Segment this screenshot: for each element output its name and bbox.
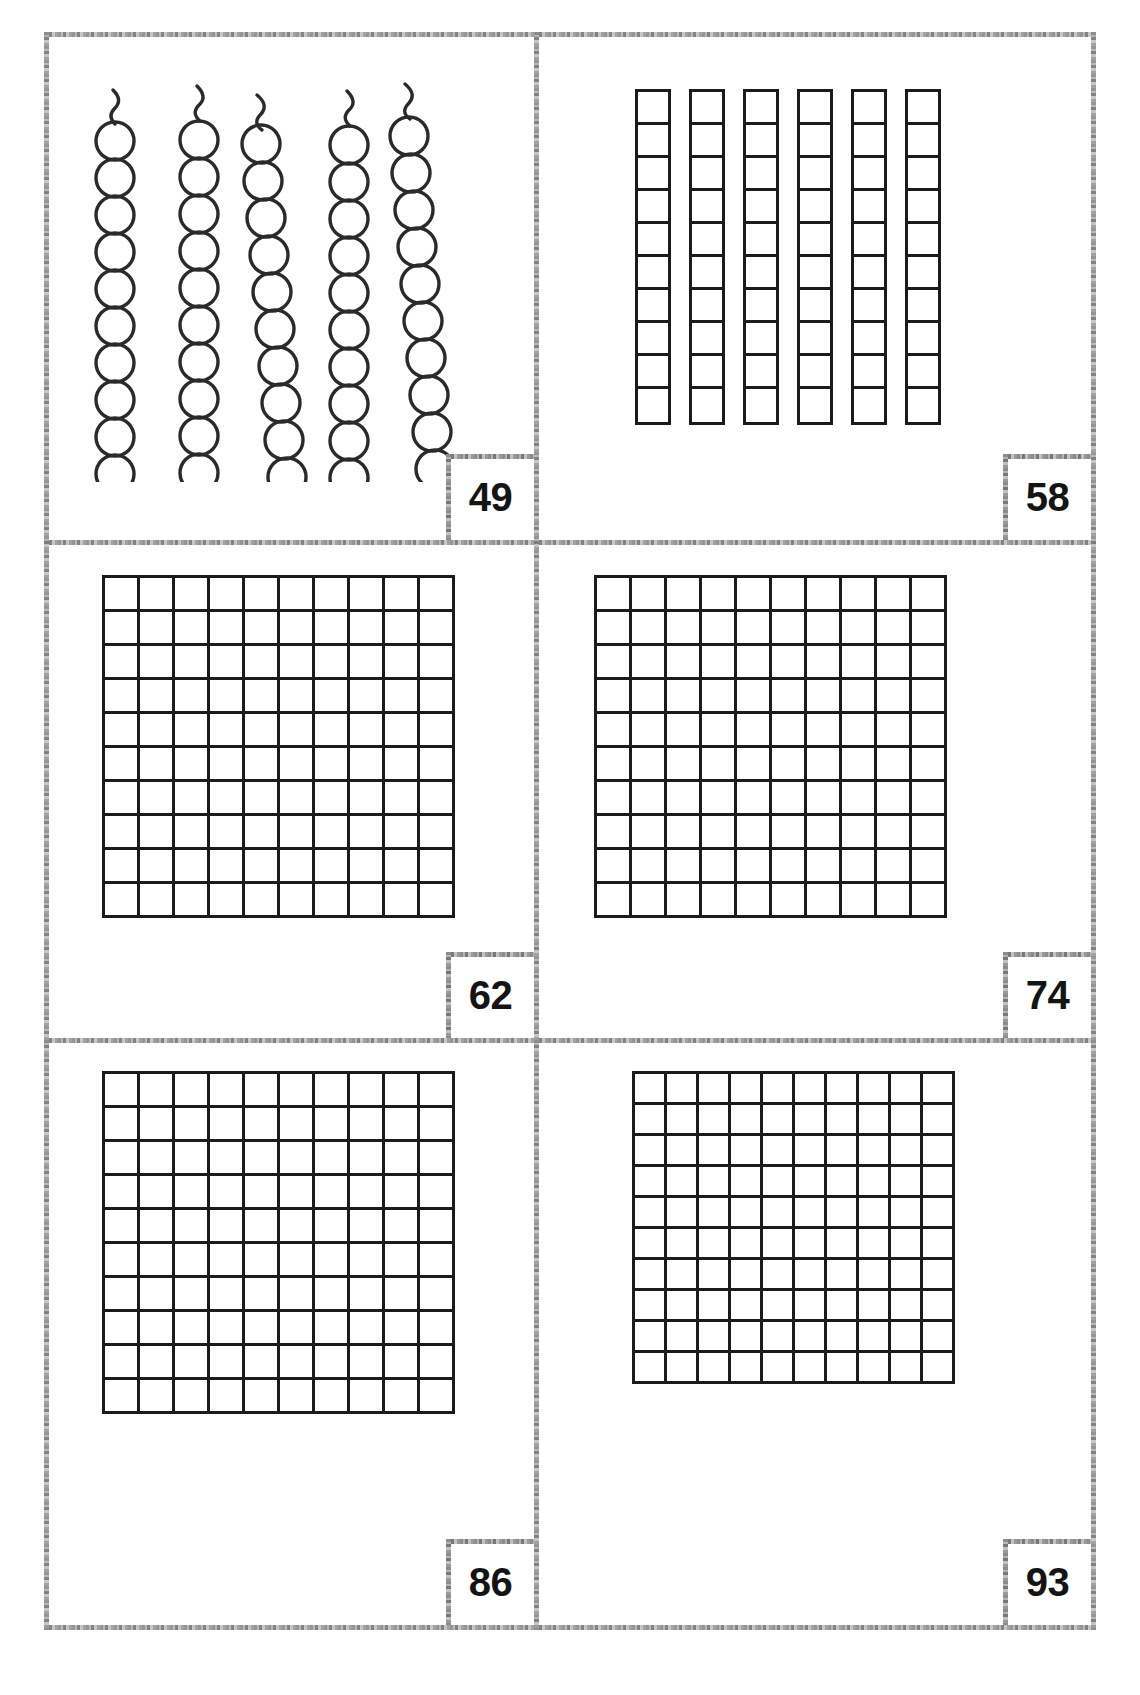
grid-unit	[737, 850, 772, 884]
answer-value-4: 74	[1008, 957, 1087, 1038]
grid-unit	[175, 884, 210, 918]
grid-unit	[280, 1142, 315, 1176]
hundred-square-grid-93	[632, 1071, 955, 1384]
grid-unit	[667, 1074, 699, 1105]
grid-unit	[105, 816, 140, 850]
grid-unit	[632, 680, 667, 714]
grid-unit	[912, 714, 947, 748]
grid-unit	[923, 1136, 955, 1167]
grid-unit	[105, 680, 140, 714]
grid-unit	[667, 1353, 699, 1384]
grid-unit	[210, 714, 245, 748]
hundred-square-grid-62	[102, 575, 455, 918]
grid-unit	[105, 1142, 140, 1176]
grid-unit	[842, 680, 877, 714]
answer-badge-2[interactable]: 58	[1003, 454, 1091, 540]
grid-unit	[385, 1380, 420, 1414]
grid-unit	[280, 816, 315, 850]
grid-unit	[667, 748, 702, 782]
answer-badge-1[interactable]: 49	[446, 454, 534, 540]
grid-unit	[923, 1291, 955, 1322]
grid-unit	[350, 1312, 385, 1346]
grid-unit	[842, 850, 877, 884]
grid-unit	[795, 1291, 827, 1322]
grid-unit	[702, 612, 737, 646]
rod-unit	[746, 125, 776, 158]
rod-unit	[908, 290, 938, 323]
bead-strings-svg	[79, 82, 499, 482]
grid-unit	[859, 1322, 891, 1353]
grid-unit	[635, 1260, 667, 1291]
grid-unit	[877, 714, 912, 748]
grid-unit	[842, 612, 877, 646]
rod-unit	[800, 92, 830, 125]
grid-unit	[280, 1346, 315, 1380]
grid-unit	[912, 680, 947, 714]
grid-unit	[667, 1322, 699, 1353]
grid-unit	[140, 816, 175, 850]
grid-unit	[140, 1380, 175, 1414]
grid-unit	[280, 1210, 315, 1244]
rod-unit	[692, 191, 722, 224]
rod-unit	[746, 92, 776, 125]
grid-unit	[632, 748, 667, 782]
grid-unit	[667, 1291, 699, 1322]
grid-unit	[877, 782, 912, 816]
rod-unit	[638, 290, 668, 323]
grid-unit	[772, 714, 807, 748]
grid-unit	[245, 714, 280, 748]
grid-unit	[210, 748, 245, 782]
grid-unit	[420, 748, 455, 782]
grid-unit	[210, 646, 245, 680]
grid-unit	[597, 646, 632, 680]
grid-unit	[350, 1176, 385, 1210]
grid-unit	[667, 1229, 699, 1260]
grid-unit	[105, 1312, 140, 1346]
problem-cell-3: 62	[49, 545, 534, 1038]
grid-unit	[667, 850, 702, 884]
grid-unit	[772, 782, 807, 816]
grid-unit	[827, 1105, 859, 1136]
rod-unit	[854, 290, 884, 323]
grid-unit	[731, 1229, 763, 1260]
rod-unit	[908, 191, 938, 224]
hundred-square-grid-86	[102, 1071, 455, 1414]
grid-unit	[175, 714, 210, 748]
grid-unit	[737, 816, 772, 850]
grid-unit	[420, 1210, 455, 1244]
grid-unit	[350, 578, 385, 612]
cell-6-body	[539, 1043, 1091, 1625]
grid-unit	[315, 1278, 350, 1312]
answer-badge-4[interactable]: 74	[1003, 952, 1091, 1038]
grid-unit	[315, 1176, 350, 1210]
grid-unit	[175, 1380, 210, 1414]
grid-unit	[420, 1380, 455, 1414]
grid-unit	[827, 1260, 859, 1291]
rod-unit	[908, 92, 938, 125]
grid-unit	[699, 1229, 731, 1260]
grid-unit	[737, 578, 772, 612]
rod-unit	[746, 356, 776, 389]
grid-unit	[280, 646, 315, 680]
grid-unit	[350, 1210, 385, 1244]
grid-unit	[280, 782, 315, 816]
grid-unit	[923, 1105, 955, 1136]
grid-unit	[280, 1244, 315, 1278]
grid-unit	[210, 1074, 245, 1108]
grid-unit	[210, 1312, 245, 1346]
answer-badge-6[interactable]: 93	[1003, 1539, 1091, 1625]
grid-unit	[807, 714, 842, 748]
grid-unit	[140, 1176, 175, 1210]
answer-badge-5[interactable]: 86	[446, 1539, 534, 1625]
grid-unit	[731, 1074, 763, 1105]
rod-unit	[800, 257, 830, 290]
problem-cell-1: 49	[49, 37, 534, 540]
answer-badge-3[interactable]: 62	[446, 952, 534, 1038]
grid-unit	[597, 578, 632, 612]
grid-unit	[420, 1074, 455, 1108]
grid-unit	[385, 850, 420, 884]
grid-unit	[280, 612, 315, 646]
grid-unit	[891, 1105, 923, 1136]
rod-unit	[638, 125, 668, 158]
rod-unit	[854, 191, 884, 224]
